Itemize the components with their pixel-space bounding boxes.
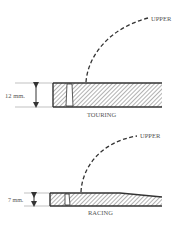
touring-upper-label: UPPER: [151, 15, 172, 22]
sole-comparison-diagram: 12 mm. UPPER TOURING 7 mm. UPPER RACING: [0, 0, 180, 228]
racing-thickness-label: 7 mm.: [8, 197, 24, 203]
racing-label: RACING: [88, 209, 113, 216]
racing-upper-curve: [81, 136, 137, 192]
racing-upper-label: UPPER: [140, 132, 161, 139]
touring-upper-curve: [86, 18, 148, 82]
racing-slot: [65, 194, 70, 205]
touring-slot: [66, 84, 73, 106]
racing-diagram: 7 mm. UPPER RACING: [8, 132, 162, 216]
touring-label: TOURING: [87, 111, 116, 118]
touring-thickness-label: 12 mm.: [5, 92, 25, 99]
touring-diagram: 12 mm. UPPER TOURING: [5, 15, 172, 118]
